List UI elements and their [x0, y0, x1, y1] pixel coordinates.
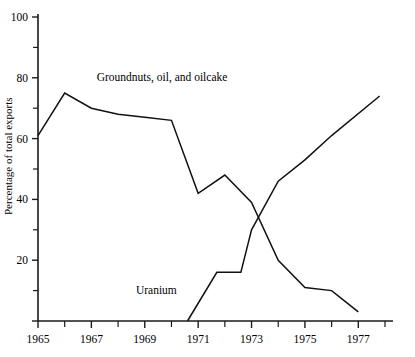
series-label-uranium: Uranium [136, 284, 177, 296]
series-annotations: Groundnuts, oil, and oilcake Uranium [97, 71, 228, 296]
y-tick-label: 20 [17, 254, 29, 266]
series-group [38, 93, 380, 321]
x-tick-label: 1973 [240, 333, 263, 345]
x-tick-label: 1965 [27, 333, 50, 345]
x-tick-label: 1977 [347, 333, 370, 345]
x-tick-label: 1975 [293, 333, 316, 345]
y-axis-group: 20406080100 Percentage of total exports [2, 11, 38, 321]
x-tick-labels: 1965196719691971197319751977 [27, 333, 371, 345]
series-line-uranium [187, 96, 379, 321]
y-tick-label: 80 [17, 72, 29, 84]
x-tick-label: 1969 [133, 333, 156, 345]
y-axis-title: Percentage of total exports [2, 97, 14, 215]
y-tick-label: 60 [17, 133, 29, 145]
x-tick-label: 1971 [187, 333, 210, 345]
x-minor-ticks [65, 321, 385, 327]
y-tick-label: 40 [17, 193, 29, 205]
series-label-groundnuts: Groundnuts, oil, and oilcake [97, 71, 228, 84]
y-tick-label: 100 [11, 11, 29, 23]
x-axis-group: 1965196719691971197319751977 [27, 321, 394, 345]
line-chart: 20406080100 Percentage of total exports … [0, 0, 415, 357]
x-tick-label: 1967 [80, 333, 103, 345]
x-major-ticks [38, 321, 358, 328]
series-line-groundnuts [38, 93, 358, 312]
chart-container: 20406080100 Percentage of total exports … [0, 0, 415, 357]
